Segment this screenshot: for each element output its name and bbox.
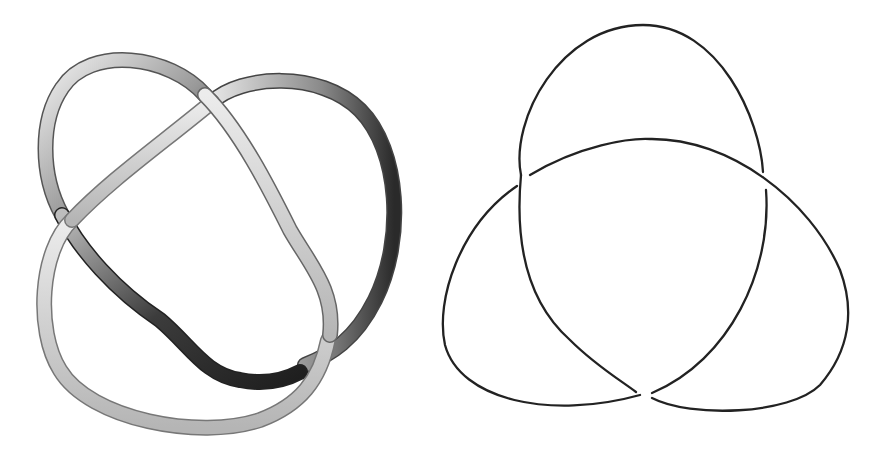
trefoil-svg [430, 0, 889, 463]
knot-arc-right-inner [652, 190, 767, 393]
tube-knot-rendering [0, 0, 445, 463]
trefoil-knot-diagram [430, 0, 889, 463]
knot-arc-left-inner [519, 175, 636, 392]
tube-knot-svg [0, 0, 445, 463]
knot-arc-top [519, 25, 763, 175]
